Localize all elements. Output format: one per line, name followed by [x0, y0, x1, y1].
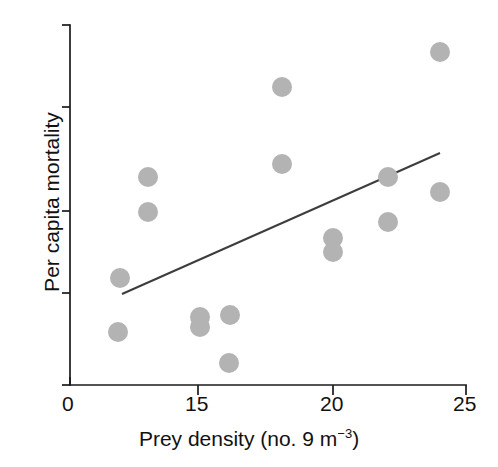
x-tick-label-0: 0: [62, 392, 74, 416]
data-point: [378, 212, 398, 232]
data-point: [108, 322, 128, 342]
data-point: [220, 305, 240, 325]
x-tick-label-25: 25: [453, 392, 476, 416]
data-points-group: [108, 42, 450, 373]
data-point: [378, 167, 398, 187]
data-point: [272, 154, 292, 174]
data-point: [138, 202, 158, 222]
x-tick-label-20: 20: [320, 392, 343, 416]
scatter-plot-figure: 0 15 20 25 Prey density (no. 9 m−3) Per …: [0, 0, 498, 467]
data-point: [110, 268, 130, 288]
data-point: [430, 42, 450, 62]
x-axis-label-exponent: −3: [337, 426, 352, 441]
x-axis-label-suffix: ): [352, 427, 359, 450]
data-point: [219, 353, 239, 373]
data-point: [430, 182, 450, 202]
data-point: [272, 77, 292, 97]
x-axis-ticks: [70, 377, 466, 395]
y-axis-label: Per capita mortality: [40, 52, 64, 352]
data-point: [323, 242, 343, 262]
data-point: [138, 167, 158, 187]
x-tick-label-15: 15: [185, 392, 208, 416]
x-axis-label-prefix: Prey density (no. 9 m: [139, 427, 337, 450]
data-point: [190, 317, 210, 337]
plot-canvas: [0, 0, 498, 467]
x-axis-label: Prey density (no. 9 m−3): [0, 427, 498, 451]
